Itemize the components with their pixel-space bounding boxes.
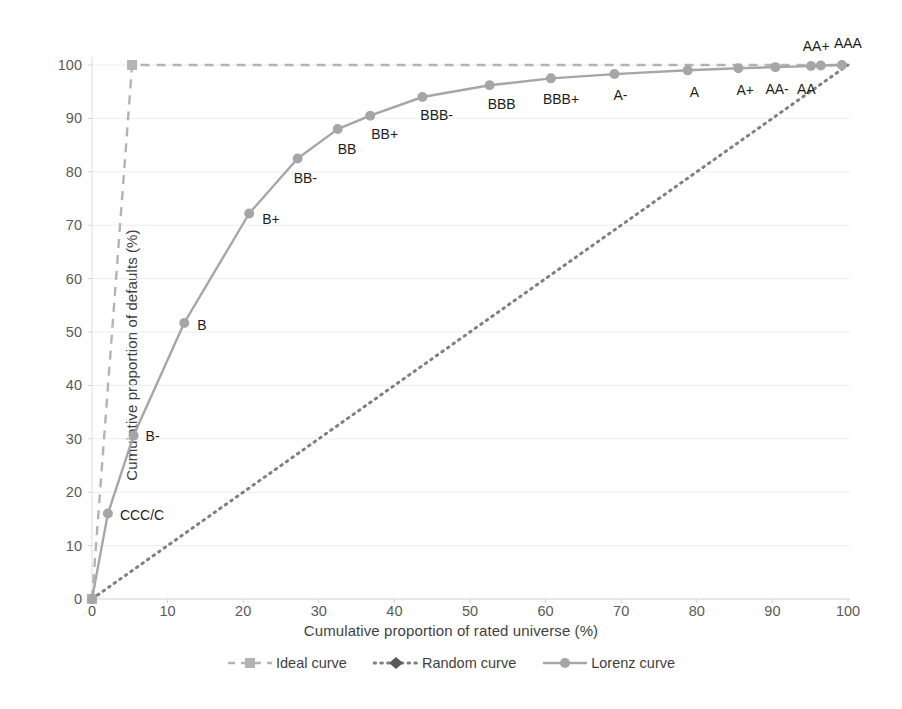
data-point-label: BB- [294,170,317,186]
legend-label: Ideal curve [276,656,347,671]
data-point-label: BBB+ [543,91,579,107]
data-point-marker [485,80,495,90]
data-point-label: B [197,317,206,333]
data-point-label: A [690,84,699,100]
legend-item-lorenz-curve[interactable]: Lorenz curve [542,655,675,671]
legend-label: Random curve [422,656,516,671]
data-point-label: B- [146,428,160,444]
data-point-label: AA+ [803,38,830,54]
data-point-marker [806,61,816,71]
data-point-label: A+ [736,82,754,98]
x-tick-label: 10 [138,603,198,619]
data-point-marker [179,318,189,328]
data-point-marker [816,61,826,71]
data-point-label: BB [338,141,357,157]
data-point-label: AAA [834,35,862,51]
data-point-label: BBB [488,96,516,112]
data-point-marker [417,92,427,102]
legend-item-ideal-curve[interactable]: Ideal curve [227,655,347,671]
data-point-label: AA- [765,81,788,97]
x-tick-label: 60 [516,603,576,619]
data-point-label: AA [797,81,816,97]
x-tick-label: 40 [364,603,424,619]
data-point-label: CCC/C [120,507,164,523]
dashed-line-icon [227,655,273,671]
x-tick-label: 90 [742,603,802,619]
x-tick-label: 20 [213,603,273,619]
data-point-marker [127,60,137,70]
legend-label: Lorenz curve [591,656,675,671]
data-point-marker [244,208,254,218]
data-point-marker [609,69,619,79]
x-tick-label: 100 [818,603,878,619]
data-point-marker [103,509,113,519]
data-point-marker [293,153,303,163]
x-tick-label: 70 [591,603,651,619]
solid-line-icon [542,655,588,671]
data-point-label: BBB- [420,107,453,123]
chart-legend: Ideal curveRandom curveLorenz curve [0,655,902,671]
dotted-line-icon [373,655,419,671]
x-tick-label: 30 [289,603,349,619]
data-point-label: B+ [262,211,280,227]
legend-item-random-curve[interactable]: Random curve [373,655,516,671]
x-tick-label: 0 [62,603,122,619]
data-point-marker [770,62,780,72]
x-axis-title: Cumulative proportion of rated universe … [0,622,902,639]
data-point-marker [129,431,139,441]
data-point-marker [683,65,693,75]
x-tick-label: 50 [440,603,500,619]
data-point-marker [546,73,556,83]
data-point-label: BB+ [371,126,398,142]
data-point-marker [365,111,375,121]
data-point-marker [837,60,847,70]
data-point-label: A- [613,87,627,103]
lorenz-curve-chart: Cumulative proportion of defaults (%) 01… [0,0,902,709]
x-tick-label: 80 [667,603,727,619]
data-point-marker [733,63,743,73]
data-point-marker [333,124,343,134]
